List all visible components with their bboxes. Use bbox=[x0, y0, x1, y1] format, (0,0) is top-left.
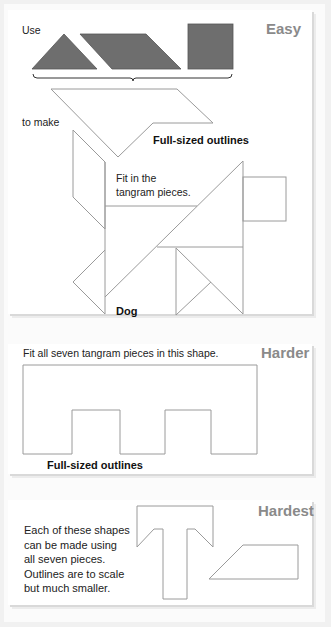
trapezoid-outline bbox=[209, 545, 298, 579]
dog-outline bbox=[73, 130, 286, 315]
harder-outline bbox=[23, 365, 257, 454]
bracket bbox=[33, 74, 232, 81]
square-piece bbox=[188, 24, 233, 69]
tangram-artwork bbox=[0, 0, 331, 627]
parallelogram-piece bbox=[80, 34, 181, 69]
t-shape-outline bbox=[137, 506, 213, 599]
parallelogram-outline bbox=[51, 89, 213, 157]
